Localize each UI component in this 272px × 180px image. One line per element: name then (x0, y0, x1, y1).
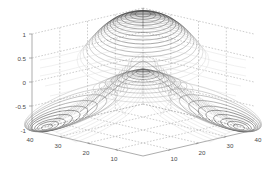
z-tick-label-1: 1 (23, 31, 27, 38)
z-tick-label-0p5: 0.5 (17, 55, 26, 62)
center-saddle-contours (93, 68, 193, 102)
y-tick-label-30: 30 (227, 142, 234, 149)
z-axis-line (29, 34, 32, 130)
y-tick-label-10: 10 (171, 155, 178, 162)
x-tick-label-10: 10 (111, 155, 118, 162)
y-tick-label-20: 20 (199, 149, 206, 156)
figure-canvas: 1 0.5 0 -0.5 -1 40 30 20 10 10 20 30 40 (0, 0, 272, 180)
z-tick-label-0: 0 (23, 79, 27, 86)
z-tick-label-neg1: -1 (20, 127, 26, 134)
x-tick-label-30: 30 (55, 142, 62, 149)
x-tick-label-40: 40 (27, 136, 34, 143)
floor-outline (32, 130, 254, 156)
z-tick-label-neg0p5: -0.5 (15, 103, 26, 110)
surface-plot-svg: 1 0.5 0 -0.5 -1 40 30 20 10 10 20 30 40 (0, 0, 272, 180)
y-tick-label-40: 40 (255, 136, 262, 143)
x-tick-label-20: 20 (83, 149, 90, 156)
